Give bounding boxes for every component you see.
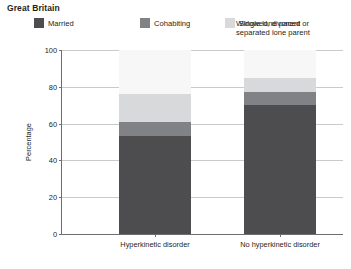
y-axis-tick-mark — [59, 87, 62, 88]
legend-item-widowed-divorced-separated: Widowed, divorced or separated lone pare… — [226, 18, 322, 37]
legend-swatch-widowed-divorced-separated — [226, 18, 236, 28]
plot-area: Percentage 020406080100Hyperkinetic diso… — [61, 50, 343, 235]
y-axis-tick-label: 100 — [45, 46, 57, 55]
x-axis-tick-mark — [280, 234, 281, 237]
bar-segment — [244, 50, 316, 78]
bar-segment — [244, 78, 316, 93]
bar-segment — [119, 50, 191, 94]
x-axis-tick-label: Hyperkinetic disorder — [120, 240, 189, 249]
y-axis-tick-mark — [59, 234, 62, 235]
y-axis-tick-mark — [59, 124, 62, 125]
legend-label-cohabiting: Cohabiting — [154, 18, 190, 28]
legend-item-married: Married — [34, 18, 74, 28]
legend-item-cohabiting: Cohabiting — [140, 18, 190, 28]
chart-container: Great Britain Married Cohabiting Single … — [0, 0, 351, 269]
y-axis-label: Percentage — [24, 123, 33, 161]
region-title: Great Britain — [7, 3, 60, 13]
bar-1 — [119, 50, 191, 234]
legend-swatch-cohabiting — [140, 18, 150, 28]
bar-segment — [119, 122, 191, 137]
y-axis-tick-label: 80 — [49, 82, 57, 91]
y-axis-tick-mark — [59, 160, 62, 161]
bar-segment — [119, 136, 191, 234]
bar-segment — [244, 92, 316, 105]
bar-2 — [244, 50, 316, 234]
bar-segment — [244, 105, 316, 234]
x-axis-tick-mark — [155, 234, 156, 237]
y-axis-tick-label: 40 — [49, 156, 57, 165]
y-axis-tick-label: 20 — [49, 193, 57, 202]
legend-label-married: Married — [48, 18, 74, 28]
x-axis-tick-label: No hyperkinetic disorder — [240, 240, 320, 249]
bar-segment — [119, 94, 191, 122]
y-axis-tick-label: 0 — [53, 230, 57, 239]
y-axis-tick-label: 60 — [49, 119, 57, 128]
legend-label-widowed-divorced-separated: Widowed, divorced or separated lone pare… — [236, 18, 322, 37]
y-axis-tick-mark — [59, 50, 62, 51]
chart-legend: Married Cohabiting Single lone parent Wi… — [34, 18, 349, 44]
legend-swatch-married — [34, 18, 44, 28]
y-axis-tick-mark — [59, 197, 62, 198]
